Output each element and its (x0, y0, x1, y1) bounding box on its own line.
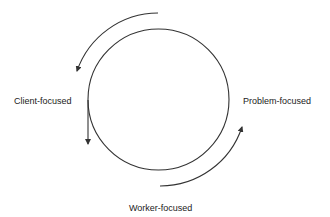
worker-focused-label: Worker-focused (129, 203, 192, 213)
problem-focused-label: Problem-focused (243, 96, 311, 106)
client-focused-label: Client-focused (14, 96, 72, 106)
diagram-canvas (0, 0, 330, 217)
focus-cycle-diagram: Client-focused Problem-focused Worker-fo… (0, 0, 330, 217)
bottom-right-arc-arrow (160, 127, 242, 186)
central-circle (88, 29, 229, 170)
